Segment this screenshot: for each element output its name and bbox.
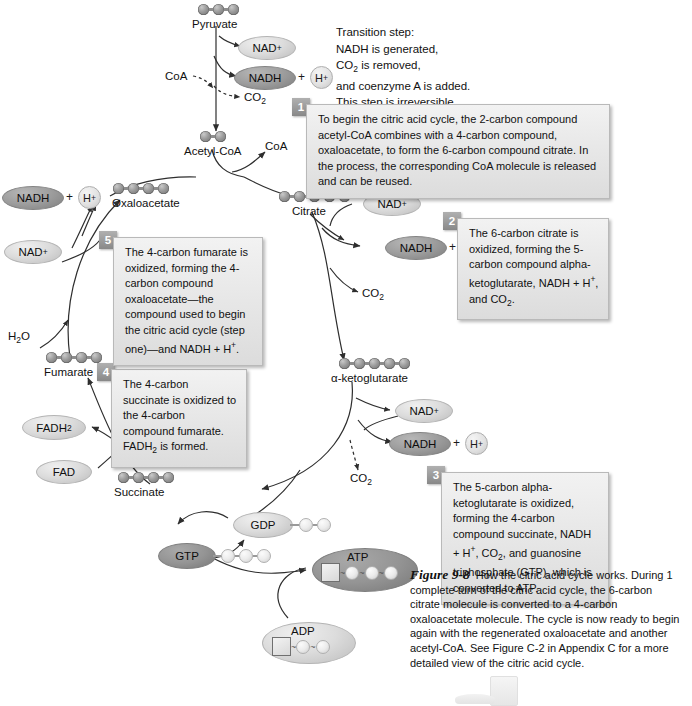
phosphate-circle xyxy=(384,566,398,580)
water-label: H2O xyxy=(8,330,30,345)
molecule-alpha-ketoglutarate xyxy=(339,358,410,369)
callout-step-5: The 4-carbon fumarate is oxidized, formi… xyxy=(113,237,263,366)
h-plus-circle-transition: H+ xyxy=(310,66,333,89)
nadh-label: NADH xyxy=(400,242,433,254)
h-plus-charge: + xyxy=(323,73,328,83)
fadh2-label: FADH xyxy=(36,422,67,434)
note-line-1: Transition step: xyxy=(336,24,470,41)
carbon-sphere xyxy=(118,472,129,483)
nad-plus-oval-step3: NAD+ xyxy=(395,399,453,423)
fad-oval: FAD xyxy=(36,460,92,484)
carbon-sphere xyxy=(294,191,305,202)
carbon-sphere xyxy=(200,131,211,142)
carbon-sphere xyxy=(128,183,139,194)
phosphate-circle xyxy=(299,518,313,532)
phosphate-circle xyxy=(365,566,379,580)
gtp-label: GTP xyxy=(175,550,199,562)
carbon-sphere xyxy=(215,131,226,142)
figure-caption: Figure 9-8 How the citric acid cycle wor… xyxy=(410,568,682,670)
nadh-oval-step2: NADH xyxy=(385,236,447,260)
h-plus-circle-step5: H+ xyxy=(78,186,101,209)
nadh-label: NADH xyxy=(404,438,437,450)
nad-plus-label: NAD xyxy=(377,198,401,210)
molecule-succinate xyxy=(118,472,174,483)
carbon-sphere xyxy=(213,4,224,15)
co2-subscript: 2 xyxy=(367,477,372,487)
fad-label: FAD xyxy=(53,466,75,478)
adp-phosphate-chain: ~ ~ xyxy=(291,640,330,654)
nad-plus-charge: + xyxy=(43,247,48,257)
molecule-pyruvate xyxy=(198,4,239,15)
molecule-label-alpha-ketoglutarate: α-ketoglutarate xyxy=(331,372,408,384)
callout-step-4: The 4-carbon succinate is oxidized to th… xyxy=(111,369,247,468)
nad-plus-charge: + xyxy=(277,43,282,53)
phosphate-circle xyxy=(296,640,310,654)
adp-label: ADP xyxy=(291,625,315,637)
carbon-sphere xyxy=(133,472,144,483)
carbon-sphere xyxy=(113,183,124,194)
phosphate-circle xyxy=(345,566,359,580)
h-plus-label: H xyxy=(470,438,478,450)
carbon-sphere xyxy=(399,358,410,369)
h-plus-label: H xyxy=(315,72,323,84)
callout-step-2: The 6-carbon citrate is oxidized, formin… xyxy=(457,218,609,320)
callout-step-2-text: The 6-carbon citrate is oxidized, formin… xyxy=(469,227,598,305)
molecule-label-pyruvate: Pyruvate xyxy=(192,18,237,30)
figure-number: Figure 9-8 xyxy=(410,567,470,582)
molecule-fumarate xyxy=(46,352,102,363)
nadh-label: NADH xyxy=(249,72,282,84)
nad-plus-label: NAD xyxy=(18,246,42,258)
co2-subscript: 2 xyxy=(261,96,266,106)
plus-sign: + xyxy=(449,240,456,254)
co2-label-step3: CO2 xyxy=(350,472,372,487)
h-plus-circle-step3: H+ xyxy=(465,432,488,455)
plus-sign: + xyxy=(298,70,305,84)
molecule-oxaloacetate xyxy=(113,183,169,194)
bond-tick: ~ xyxy=(359,568,364,578)
co2-text: CO xyxy=(244,91,261,103)
gdp-label: GDP xyxy=(251,519,276,531)
callout-step-1: To begin the citric acid cycle, the 2-ca… xyxy=(306,104,610,199)
phosphate-circle xyxy=(239,549,253,563)
carbon-sphere xyxy=(369,358,380,369)
beaker-base-decoration xyxy=(455,694,495,704)
molecule-label-acetyl-coa: Acetyl-CoA xyxy=(184,145,242,157)
nad-plus-label: NAD xyxy=(252,42,276,54)
atp-adenosine-square xyxy=(321,563,340,582)
phosphate-circle xyxy=(257,549,271,563)
plus-sign: + xyxy=(453,436,460,450)
carbon-sphere xyxy=(384,358,395,369)
carbon-sphere xyxy=(354,358,365,369)
callout-step-1-text: To begin the citric acid cycle, the 2-ca… xyxy=(318,113,596,187)
bond-tick: ~ xyxy=(310,642,315,652)
molecule-label-succinate: Succinate xyxy=(114,486,165,498)
plus-sign: + xyxy=(66,190,73,204)
callout-step-4-text: The 4-carbon succinate is oxidized to th… xyxy=(123,378,236,452)
figure-caption-text: How the citric acid cycle works. During … xyxy=(410,569,679,669)
nad-plus-charge: + xyxy=(434,406,439,416)
nad-plus-oval-step5: NAD+ xyxy=(4,240,62,264)
carbon-sphere xyxy=(91,352,102,363)
nad-plus-charge: + xyxy=(402,199,407,209)
nadh-label: NADH xyxy=(17,192,50,204)
carbon-sphere xyxy=(61,352,72,363)
co2-text: CO xyxy=(362,287,379,299)
carbon-sphere xyxy=(163,472,174,483)
carbon-sphere xyxy=(76,352,87,363)
note-co2-rest: is removed, xyxy=(358,59,421,71)
adp-adenosine-square xyxy=(272,637,291,656)
h-plus-charge: + xyxy=(91,193,96,203)
nadh-oval-step3: NADH xyxy=(389,432,451,456)
co2-subscript: 2 xyxy=(379,292,384,302)
callout-step-5-text: The 4-carbon fumarate is oxidized, formi… xyxy=(125,246,248,355)
co2-label-step2: CO2 xyxy=(362,287,384,302)
nad-plus-label: NAD xyxy=(409,405,433,417)
gdp-oval: GDP xyxy=(233,512,293,538)
gtp-oval: GTP xyxy=(158,543,216,569)
carbon-sphere xyxy=(198,4,209,15)
molecule-acetyl-coa xyxy=(200,131,226,142)
fadh2-oval: FADH2 xyxy=(22,415,86,440)
gdp-phosphate-chain xyxy=(290,518,331,532)
carbon-sphere xyxy=(279,191,290,202)
fadh2-subscript: 2 xyxy=(67,423,72,433)
